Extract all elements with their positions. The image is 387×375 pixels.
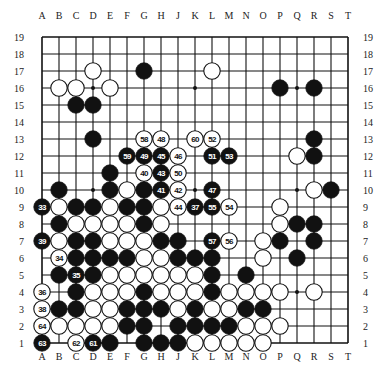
black-stone — [68, 284, 84, 300]
white-stone — [255, 318, 271, 334]
row-label-left: 18 — [14, 49, 24, 60]
white-stone: 36 — [34, 284, 50, 300]
move-number: 50 — [174, 169, 183, 178]
black-stone — [289, 216, 305, 232]
black-stone — [204, 250, 220, 266]
black-stone — [68, 199, 84, 215]
move-number: 52 — [208, 135, 217, 144]
white-stone — [102, 80, 118, 96]
white-stone — [153, 216, 169, 232]
column-label-bottom: L — [209, 351, 215, 362]
white-stone: 56 — [221, 233, 237, 249]
white-stone: 34 — [51, 250, 67, 266]
white-stone — [102, 284, 118, 300]
row-label-left: 6 — [19, 253, 24, 264]
row-label-right: 19 — [363, 32, 373, 43]
column-label-top: P — [277, 10, 283, 21]
white-stone — [153, 284, 169, 300]
column-label-top: S — [328, 10, 334, 21]
white-stone — [170, 301, 186, 317]
move-number: 41 — [157, 186, 166, 195]
black-stone — [204, 284, 220, 300]
column-label-top: D — [89, 10, 96, 21]
row-label-left: 5 — [19, 270, 24, 281]
white-stone: 40 — [136, 165, 152, 181]
white-stone — [153, 250, 169, 266]
row-label-right: 4 — [363, 287, 368, 298]
black-stone — [119, 318, 135, 334]
white-stone: 54 — [221, 199, 237, 215]
move-number: 54 — [225, 203, 234, 212]
white-stone — [204, 301, 220, 317]
black-stone: 41 — [153, 182, 169, 198]
white-stone — [68, 318, 84, 334]
white-stone: 60 — [187, 131, 203, 147]
black-stone — [255, 301, 271, 317]
black-stone — [170, 233, 186, 249]
white-stone — [51, 80, 67, 96]
black-stone — [306, 148, 322, 164]
row-label-left: 4 — [19, 287, 24, 298]
white-stone: 38 — [34, 301, 50, 317]
white-stone — [187, 284, 203, 300]
column-label-top: J — [176, 10, 180, 21]
black-stone — [238, 267, 254, 283]
black-stone — [221, 318, 237, 334]
black-stone — [68, 250, 84, 266]
black-stone — [136, 216, 152, 232]
black-stone — [85, 250, 101, 266]
white-stone — [51, 199, 67, 215]
star-point — [295, 86, 299, 90]
white-stone — [102, 233, 118, 249]
black-stone — [85, 199, 101, 215]
black-stone — [289, 250, 305, 266]
column-label-bottom: S — [328, 351, 334, 362]
move-number: 60 — [191, 135, 200, 144]
row-label-left: 3 — [19, 304, 24, 315]
black-stone — [136, 63, 152, 79]
star-point — [91, 188, 95, 192]
white-stone: 52 — [204, 131, 220, 147]
move-number: 35 — [72, 271, 81, 280]
white-stone — [68, 80, 84, 96]
white-stone — [272, 318, 288, 334]
column-label-top: F — [124, 10, 130, 21]
black-stone — [68, 233, 84, 249]
black-stone — [136, 335, 152, 351]
white-stone — [238, 318, 254, 334]
white-stone — [119, 216, 135, 232]
column-label-bottom: Q — [293, 351, 301, 362]
white-stone — [255, 335, 271, 351]
white-stone — [221, 284, 237, 300]
white-stone — [102, 199, 118, 215]
column-label-bottom: H — [157, 351, 164, 362]
move-number: 58 — [140, 135, 149, 144]
white-stone — [102, 267, 118, 283]
white-stone — [204, 63, 220, 79]
row-label-left: 2 — [19, 321, 24, 332]
column-label-bottom: D — [89, 351, 96, 362]
column-label-top: K — [191, 10, 199, 21]
row-label-right: 10 — [363, 185, 373, 196]
column-label-top: E — [107, 10, 113, 21]
black-stone: 35 — [68, 267, 84, 283]
black-stone — [68, 97, 84, 113]
black-stone — [119, 250, 135, 266]
column-label-bottom: J — [176, 351, 180, 362]
white-stone — [153, 199, 169, 215]
move-number: 53 — [225, 152, 234, 161]
black-stone — [136, 284, 152, 300]
row-label-left: 15 — [14, 100, 24, 111]
column-label-bottom: E — [107, 351, 113, 362]
star-point — [295, 188, 299, 192]
star-point — [91, 86, 95, 90]
black-stone — [153, 335, 169, 351]
column-label-bottom: C — [73, 351, 80, 362]
move-number: 33 — [38, 203, 47, 212]
white-stone — [187, 267, 203, 283]
column-label-bottom: T — [345, 351, 351, 362]
white-stone — [306, 182, 322, 198]
row-label-right: 8 — [363, 219, 368, 230]
star-point — [295, 290, 299, 294]
white-stone — [221, 301, 237, 317]
